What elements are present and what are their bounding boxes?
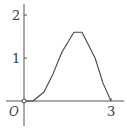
y-ticks: 12 [12,8,27,66]
chart: 12 3 O [0,0,127,140]
origin-open-circle [22,99,26,103]
x-tick-label: 3 [107,104,115,119]
origin-label: O [9,105,19,119]
data-curve [26,32,111,101]
y-tick-label: 2 [12,8,20,23]
y-tick-label: 1 [12,51,20,66]
